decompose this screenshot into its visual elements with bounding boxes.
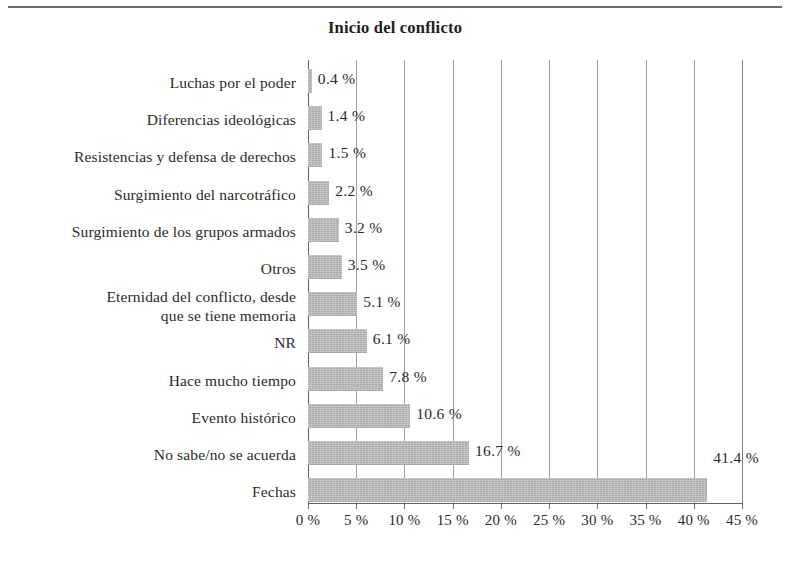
x-tick <box>356 504 357 509</box>
bar <box>308 69 312 93</box>
x-tick <box>501 504 502 509</box>
bar <box>308 218 339 242</box>
x-tick-label: 35 % <box>630 512 662 529</box>
x-tick-label: 0 % <box>296 512 320 529</box>
category-label: Diferencias ideológicas <box>147 110 296 129</box>
bar-value-label: 6.1 % <box>373 330 411 348</box>
plot-area: 0.4 %1.4 %1.5 %2.2 %3.2 %3.5 %5.1 %6.1 %… <box>308 60 742 503</box>
bar-value-label: 3.5 % <box>348 256 386 274</box>
bar <box>308 143 322 167</box>
bar <box>308 441 469 465</box>
x-tick-label: 20 % <box>485 512 517 529</box>
bar <box>308 367 383 391</box>
category-label: Otros <box>261 259 296 278</box>
x-tick-label: 5 % <box>344 512 368 529</box>
chart-title: Inicio del conflicto <box>0 18 790 38</box>
x-tick <box>694 504 695 509</box>
bar-value-label: 7.8 % <box>389 368 427 386</box>
x-axis-line <box>308 503 743 504</box>
x-tick-label: 15 % <box>437 512 469 529</box>
bar-value-label: 3.2 % <box>345 219 383 237</box>
category-label: Eternidad del conflicto, desde que se ti… <box>106 287 296 325</box>
x-tick <box>597 504 598 509</box>
x-tick <box>549 504 550 509</box>
bar-value-label: 1.5 % <box>328 144 366 162</box>
bar-value-label: 10.6 % <box>416 405 462 423</box>
bar-value-label: 16.7 % <box>475 442 521 460</box>
bar <box>308 478 707 502</box>
bar-value-label: 1.4 % <box>328 107 366 125</box>
x-tick <box>308 504 309 509</box>
bar-value-label: 0.4 % <box>318 70 356 88</box>
category-label: Hace mucho tiempo <box>169 371 296 390</box>
category-label: Surgimiento del narcotráfico <box>114 185 296 204</box>
page-rule <box>8 6 782 8</box>
bar <box>308 292 357 316</box>
bar <box>308 255 342 279</box>
bar-row: 7.8 % <box>308 360 742 397</box>
x-tick <box>646 504 647 509</box>
bar-row: 5.1 % <box>308 285 742 322</box>
bar-row: 3.5 % <box>308 248 742 285</box>
x-tick-label: 10 % <box>388 512 420 529</box>
category-label: Surgimiento de los grupos armados <box>72 222 296 241</box>
bar-value-label: 2.2 % <box>335 182 373 200</box>
bar-row: 2.2 % <box>308 174 742 211</box>
bar-row: 0.4 % <box>308 62 742 99</box>
x-tick <box>404 504 405 509</box>
bar-row: 10.6 % <box>308 397 742 434</box>
bar-row: 3.2 % <box>308 211 742 248</box>
x-tick-label: 25 % <box>533 512 565 529</box>
category-label: No sabe/no se acuerda <box>154 445 296 464</box>
bar-row: 16.7 % <box>308 434 742 471</box>
category-label: NR <box>274 333 296 352</box>
bar-row: 1.4 % <box>308 99 742 136</box>
x-tick-label: 30 % <box>581 512 613 529</box>
bar-row: 1.5 % <box>308 136 742 173</box>
bar-row: 6.1 % <box>308 322 742 359</box>
category-label: Evento histórico <box>192 408 296 427</box>
bar <box>308 404 410 428</box>
x-tick-label: 45 % <box>726 512 758 529</box>
x-tick <box>742 504 743 509</box>
x-tick <box>453 504 454 509</box>
bar <box>308 329 367 353</box>
gridline-45% <box>742 60 743 503</box>
category-label: Resistencias y defensa de derechos <box>74 147 296 166</box>
bar <box>308 106 322 130</box>
figure: Inicio del conflicto 0.4 %1.4 %1.5 %2.2 … <box>0 0 790 571</box>
bar-value-label: 41.4 % <box>713 449 759 467</box>
bar-value-label: 5.1 % <box>363 293 401 311</box>
x-tick-label: 40 % <box>678 512 710 529</box>
category-label: Fechas <box>252 482 296 501</box>
category-label: Luchas por el poder <box>170 73 296 92</box>
bar <box>308 181 329 205</box>
